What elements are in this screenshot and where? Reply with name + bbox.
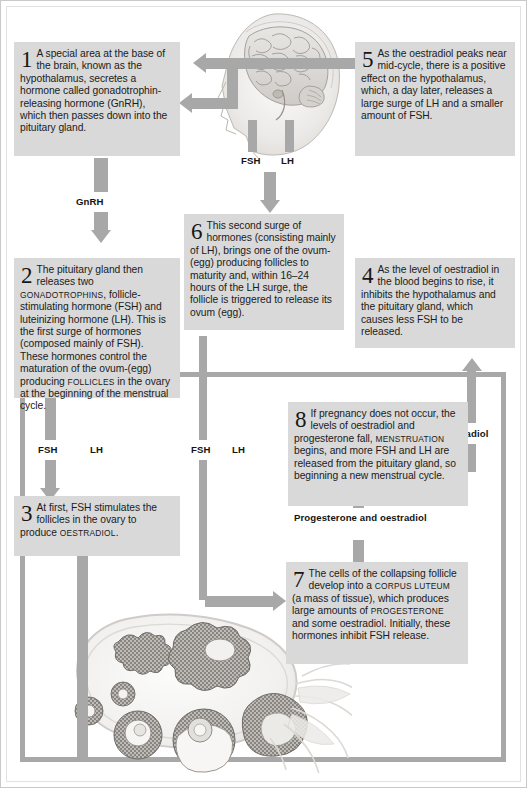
step-1-text: A special area at the base of the brain,… — [20, 48, 172, 135]
arrow-label-head-fsh: FSH — [241, 155, 261, 166]
arrow-label-left-lh: LH — [90, 444, 103, 455]
step-3-text: At first, FSH stimulates the follicles i… — [20, 502, 172, 539]
arrow-head-lh-shaft-top — [285, 120, 294, 152]
step-5-number: 5 — [362, 49, 374, 70]
step-2-smallcaps-b: FOLLICLES — [68, 377, 115, 387]
arrow-ovary-to-7-shaft — [205, 596, 273, 607]
step-6-text: This second surge of hormones (consistin… — [190, 220, 336, 319]
arrow-prog-shaft-bottom — [353, 540, 364, 562]
step-box-8: 8 If pregnancy does not occur, the level… — [288, 402, 468, 506]
step-8-number: 8 — [295, 409, 307, 430]
arrow-3-to-ovary-shaft — [77, 556, 88, 762]
step-3-number: 3 — [21, 503, 33, 524]
arrow-label-gnrh: GnRH — [76, 196, 104, 207]
step-7-text: The cells of the collapsing follicle dev… — [292, 568, 460, 642]
arrow-oestradiol-shaft-bottom — [467, 444, 476, 472]
step-box-5: 5 As the oestradiol peaks near mid-cycle… — [355, 42, 515, 156]
step-7-text-c: and some oestradiol. Initially, these ho… — [292, 618, 450, 641]
step-6-number: 6 — [191, 221, 203, 242]
step-4-text: As the level of oestradiol in the blood … — [361, 264, 507, 338]
step-2-text-a: The pituitary gland then releases two — [37, 264, 143, 287]
step-box-3: 3 At first, FSH stimulates the follicles… — [14, 496, 180, 556]
arrow-ovary-to-7-head — [273, 591, 286, 611]
step-box-2: 2 The pituitary gland then releases two … — [14, 258, 180, 398]
arrow-head-to-1-head — [179, 93, 192, 113]
step-4-number: 4 — [362, 265, 374, 286]
arrow-label-progesterone-oestradiol: Progesterone and oestradiol — [294, 512, 427, 523]
step-7-number: 7 — [293, 569, 305, 590]
arrow-head-to-6-shaft — [264, 172, 276, 202]
step-5-text: As the oestradiol peaks near mid-cycle, … — [361, 48, 507, 122]
step-2-smallcaps-a: GONADOTROPHINS — [20, 290, 103, 300]
step-2-number: 2 — [21, 265, 33, 286]
step-3-text-b: . — [116, 527, 119, 538]
arrow-label-mid-fsh: FSH — [191, 444, 211, 455]
step-box-7: 7 The cells of the collapsing follicle d… — [286, 562, 468, 664]
step-2-text: The pituitary gland then releases two GO… — [20, 264, 172, 413]
arrow-head-fsh-lh-shaft-top — [248, 120, 257, 152]
step-7-smallcaps-a: CORPUS LUTEUM — [375, 581, 450, 591]
arrow-gnrh-head — [91, 230, 111, 243]
arrow-fsh-mid-shaft-bottom — [199, 460, 207, 600]
step-8-text-b: begins, and more FSH and LH are released… — [294, 445, 456, 481]
arrow-oestradiol-shaft-top — [467, 371, 476, 423]
arrow-gnrh-shaft-bottom — [94, 212, 108, 230]
step-3-smallcaps-a: OESTRADIOL — [60, 528, 116, 538]
arrow-label-left-fsh: FSH — [38, 444, 58, 455]
arrow-oestradiol-head — [462, 358, 482, 371]
arrow-head-connector — [227, 63, 238, 103]
step-box-1: 1 A special area at the base of the brai… — [14, 42, 180, 156]
arrow-fsh-left-shaft-bottom — [45, 460, 56, 490]
step-7-smallcaps-b: PROGESTERONE — [371, 606, 444, 616]
step-8-smallcaps-a: MENSTRUATION — [375, 434, 444, 444]
step-box-4: 4 As the level of oestradiol in the bloo… — [355, 258, 515, 348]
step-box-6: 6 This second surge of hormones (consist… — [184, 214, 344, 330]
step-2-text-b: , follicle-stimulating hormone (FSH) and… — [20, 289, 166, 387]
step-1-number: 1 — [21, 49, 33, 70]
arrow-label-head-lh: LH — [281, 155, 294, 166]
arrow-fsh-mid-shaft-top — [199, 336, 207, 440]
arrow-label-mid-lh: LH — [232, 444, 245, 455]
step-8-text: If pregnancy does not occur, the levels … — [294, 408, 460, 482]
diagram-canvas: GnRH FSH LH FSH LH FSH LH Progesterone a… — [0, 0, 529, 810]
arrow-head-to-6-head — [260, 200, 280, 213]
arrow-gnrh-shaft-top — [94, 158, 108, 192]
arrow-5-to-head-head — [193, 53, 206, 73]
